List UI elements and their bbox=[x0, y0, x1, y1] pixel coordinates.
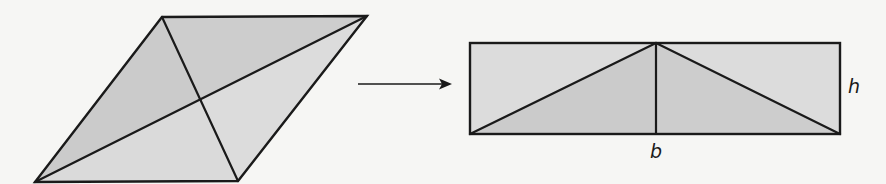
rhombus-to-rectangle-diagram: h b bbox=[0, 0, 886, 184]
height-label: h bbox=[848, 75, 860, 97]
rhombus bbox=[35, 16, 367, 182]
base-label: b bbox=[650, 140, 662, 162]
rectangle bbox=[470, 43, 840, 134]
transform-arrow bbox=[358, 79, 452, 90]
